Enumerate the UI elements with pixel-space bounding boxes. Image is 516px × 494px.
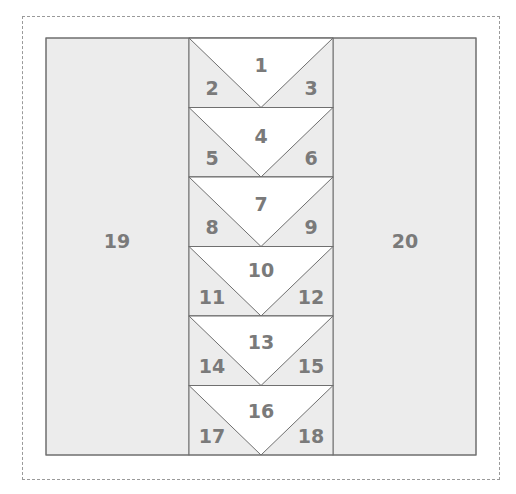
label-6: 6 (304, 147, 317, 169)
goose-row-4: 10 11 12 (189, 247, 333, 317)
label-5: 5 (205, 147, 218, 169)
goose-row-6: 16 17 18 (189, 386, 333, 456)
goose-row-2: 4 5 6 (189, 108, 333, 178)
label-2: 2 (205, 77, 218, 99)
geese-column: 1 2 3 4 5 6 7 8 9 10 11 12 (189, 38, 333, 455)
label-18: 18 (298, 425, 324, 447)
label-20: 20 (392, 230, 418, 252)
label-11: 11 (199, 286, 225, 308)
label-9: 9 (304, 216, 317, 238)
goose-row-1: 1 2 3 (189, 38, 333, 108)
label-16: 16 (248, 400, 274, 422)
label-7: 7 (254, 193, 267, 215)
label-10: 10 (248, 259, 274, 281)
label-4: 4 (254, 125, 267, 147)
flying-geese-block-diagram: 19 20 1 2 3 4 5 6 7 8 9 (0, 0, 516, 494)
label-8: 8 (205, 216, 218, 238)
label-15: 15 (298, 355, 324, 377)
label-19: 19 (104, 230, 130, 252)
label-1: 1 (254, 54, 267, 76)
label-12: 12 (298, 286, 324, 308)
goose-row-5: 13 14 15 (189, 316, 333, 386)
label-13: 13 (248, 331, 274, 353)
label-3: 3 (304, 77, 317, 99)
label-17: 17 (199, 425, 225, 447)
label-14: 14 (199, 355, 225, 377)
goose-row-3: 7 8 9 (189, 177, 333, 247)
